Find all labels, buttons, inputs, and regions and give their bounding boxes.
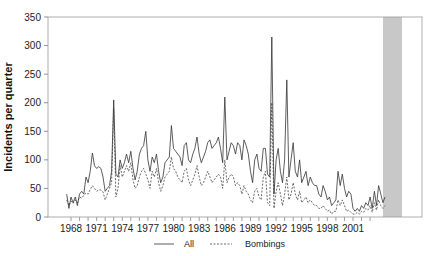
y-tick-label: 350: [24, 12, 41, 23]
x-tick-label: 1998: [316, 223, 339, 234]
legend: All Bombings: [154, 239, 286, 249]
x-tick-label: 1986: [214, 223, 237, 234]
y-axis-label: Incidents per quarter: [2, 62, 14, 172]
y-axis: 050100150200250300350: [24, 12, 48, 223]
chart: 050100150200250300350 196819711974197719…: [0, 0, 427, 256]
x-tick-label: 1971: [86, 223, 109, 234]
y-tick-label: 50: [30, 183, 42, 194]
y-tick-label: 300: [24, 40, 41, 51]
x-tick-label: 1974: [111, 223, 134, 234]
x-tick-label: 2001: [342, 223, 365, 234]
x-tick-label: 1983: [188, 223, 211, 234]
legend-bombings-label: Bombings: [245, 239, 286, 249]
series-all-line: [67, 37, 385, 211]
x-tick-label: 1980: [162, 223, 185, 234]
y-tick-label: 250: [24, 69, 41, 80]
y-tick-label: 100: [24, 154, 41, 165]
x-tick-label: 1977: [137, 223, 160, 234]
y-tick-label: 0: [35, 212, 41, 223]
shaded-region: [383, 17, 402, 217]
plot-frame: [48, 17, 422, 217]
x-tick-label: 1995: [291, 223, 314, 234]
y-tick-label: 200: [24, 97, 41, 108]
legend-all-label: All: [184, 239, 194, 249]
x-tick-label: 1968: [60, 223, 83, 234]
y-tick-label: 150: [24, 126, 41, 137]
x-axis: 1968197119741977198019831986198919921995…: [60, 217, 370, 234]
x-tick-label: 1992: [265, 223, 288, 234]
x-tick-label: 1989: [239, 223, 262, 234]
